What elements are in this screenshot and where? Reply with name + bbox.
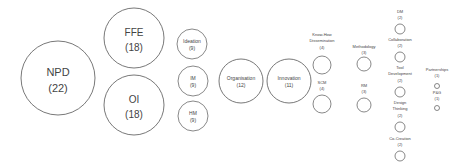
bubble-hm: HM(9) — [178, 101, 208, 131]
bubble-circle — [395, 87, 405, 97]
bubble-circle — [313, 56, 331, 74]
bubble-circle — [267, 59, 311, 103]
bubble-count: (4) — [320, 86, 326, 91]
bubble-label: FFE — [125, 27, 144, 38]
bubble-circle — [435, 106, 440, 111]
bubble-count: (22) — [48, 82, 68, 94]
bubble-diagram: NPD(22)FFE(18)OI(18)Ideation(9)IM(9)HM(9… — [0, 0, 471, 165]
bubble-label: IM — [190, 75, 196, 81]
bubble-count: (2) — [398, 43, 404, 48]
bubble-count: (1) — [435, 96, 441, 101]
bubble-label: SCM — [318, 80, 327, 85]
bubble-cocreation: Co-Creation(2) — [389, 136, 411, 161]
bubble-circle — [395, 151, 405, 161]
bubble-count: (18) — [125, 109, 143, 120]
bubble-label: Co-Creation — [389, 136, 411, 141]
bubble-oi: OI(18) — [104, 75, 164, 135]
bubble-methodology: Methodology(3) — [353, 44, 376, 71]
bubble-count: (9) — [189, 45, 195, 51]
bubble-label: P&G — [433, 90, 441, 95]
bubble-count: (3) — [362, 89, 368, 94]
bubble-label: Thinking — [392, 106, 407, 111]
bubble-count: (2) — [398, 15, 404, 20]
bubble-count: (3) — [362, 50, 368, 55]
bubble-circle — [313, 95, 331, 113]
bubble-circle — [219, 59, 263, 103]
bubble-label: Know-How — [312, 32, 331, 37]
bubble-circle — [357, 98, 371, 112]
bubble-circle — [395, 122, 405, 132]
bubble-pg: P&G(1) — [433, 90, 441, 111]
bubble-circle — [178, 66, 208, 96]
bubble-label: NPD — [46, 66, 69, 78]
bubble-circle — [435, 84, 440, 89]
bubble-npd: NPD(22) — [21, 41, 95, 115]
bubble-label: RM — [361, 83, 367, 88]
bubble-circle — [178, 101, 208, 131]
bubble-innovation: Innovation(11) — [267, 59, 311, 103]
bubble-collaboration: Collaboration(2) — [388, 37, 412, 62]
bubble-count: (1) — [435, 73, 441, 78]
bubble-ideation: Ideation(9) — [177, 29, 207, 59]
bubble-circle — [357, 57, 371, 71]
bubble-label: Development — [388, 71, 412, 76]
bubble-label: OI — [129, 94, 140, 105]
bubble-dm: DM(2) — [395, 9, 405, 34]
bubble-partnerships: Partnerships(1) — [426, 67, 448, 89]
bubble-circle — [177, 29, 207, 59]
bubble-label: Organisation — [227, 75, 256, 81]
bubble-designthinking: DesignThinking(2) — [392, 100, 407, 132]
bubble-count: (4) — [320, 45, 326, 50]
bubble-count: (12) — [237, 82, 246, 88]
bubble-circle — [104, 75, 164, 135]
bubble-count: (2) — [398, 113, 404, 118]
bubble-scm: SCM(4) — [313, 80, 331, 113]
bubble-label: Methodology — [353, 44, 376, 49]
bubble-count: (18) — [125, 42, 143, 53]
bubble-label: DM — [397, 9, 403, 14]
bubble-knowhow: Know-HowDissemination(4) — [309, 32, 334, 74]
bubble-label: Ideation — [183, 38, 201, 44]
bubble-count: (9) — [190, 82, 196, 88]
bubble-label: Design — [394, 100, 406, 105]
bubble-label: Collaboration — [388, 37, 412, 42]
bubble-count: (2) — [398, 78, 404, 83]
bubble-rm: RM(3) — [357, 83, 371, 112]
bubble-circle — [395, 52, 405, 62]
bubble-im: IM(9) — [178, 66, 208, 96]
bubble-ffe: FFE(18) — [104, 8, 164, 68]
bubble-circle — [104, 8, 164, 68]
bubble-count: (11) — [285, 82, 294, 88]
bubble-count: (2) — [398, 142, 404, 147]
bubble-label: HM — [189, 110, 197, 116]
bubble-circle — [21, 41, 95, 115]
bubble-circle — [395, 24, 405, 34]
bubble-tooldev: ToolDevelopment(2) — [388, 65, 412, 97]
bubble-count: (9) — [190, 117, 196, 123]
bubble-label: Tool — [396, 65, 403, 70]
bubble-organisation: Organisation(12) — [219, 59, 263, 103]
bubble-label: Dissemination — [309, 38, 334, 43]
bubble-label: Innovation — [277, 75, 300, 81]
bubble-label: Partnerships — [426, 67, 448, 72]
